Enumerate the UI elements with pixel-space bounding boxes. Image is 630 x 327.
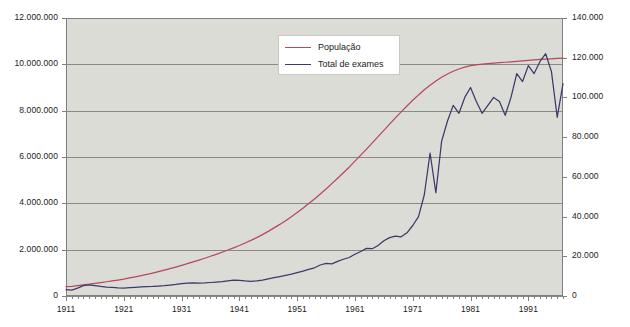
legend-swatch-populacao [285, 47, 311, 48]
x-axis-tick-1961: 1961 [335, 304, 375, 314]
y-axis-left-tick-12000000: 12.000.000 [0, 12, 58, 22]
y-axis-right-tick-0: 0 [572, 290, 630, 300]
y-axis-right-tick-80000: 80.000 [572, 131, 630, 141]
x-axis-tick-1971: 1971 [393, 304, 433, 314]
y-axis-right-tick-40000: 40.000 [572, 211, 630, 221]
y-axis-right-tick-20000: 20.000 [572, 250, 630, 260]
x-axis-tick-1941: 1941 [219, 304, 259, 314]
chart-legend: População Total de exames [278, 35, 400, 75]
legend-item-populacao: População [279, 40, 401, 54]
population-exams-line-chart: População Total de exames 02.000.0004.00… [0, 0, 630, 327]
x-axis-tick-1981: 1981 [451, 304, 491, 314]
y-axis-left-tick-8000000: 8.000.000 [0, 105, 58, 115]
y-axis-left-tick-4000000: 4.000.000 [0, 197, 58, 207]
y-axis-right-tick-60000: 60.000 [572, 171, 630, 181]
y-axis-right-tick-140000: 140.000 [572, 12, 630, 22]
x-axis-tick-1911: 1911 [46, 304, 86, 314]
legend-swatch-total-de-exames [285, 64, 311, 65]
y-axis-right-tick-100000: 100.000 [572, 91, 630, 101]
y-axis-right-tick-120000: 120.000 [572, 52, 630, 62]
y-axis-left-tick-6000000: 6.000.000 [0, 151, 58, 161]
x-axis-tick-1921: 1921 [104, 304, 144, 314]
legend-item-total-de-exames: Total de exames [279, 57, 401, 71]
x-axis-tick-1951: 1951 [277, 304, 317, 314]
x-axis-tick-1991: 1991 [508, 304, 548, 314]
legend-label-populacao: População [318, 42, 361, 52]
y-axis-left-tick-0: 0 [0, 290, 58, 300]
y-axis-left-tick-10000000: 10.000.000 [0, 58, 58, 68]
legend-label-total-de-exames: Total de exames [318, 59, 384, 69]
x-axis-tick-1931: 1931 [162, 304, 202, 314]
y-axis-left-tick-2000000: 2.000.000 [0, 244, 58, 254]
